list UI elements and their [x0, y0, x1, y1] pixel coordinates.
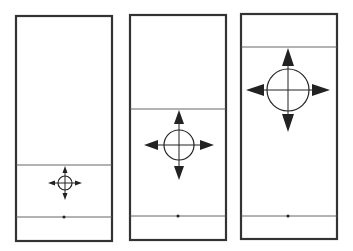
panel-1 [16, 16, 112, 241]
reference-dot [63, 216, 66, 219]
panel-2 [130, 15, 226, 240]
arrow-left-icon [48, 181, 55, 186]
panel-3 [241, 14, 337, 239]
panel-frame [16, 16, 112, 241]
arrow-right-icon [312, 84, 330, 96]
arrow-down-icon [282, 114, 294, 132]
arrow-down-icon [174, 166, 184, 180]
crosshair-target-icon [246, 48, 330, 132]
panel-frame [130, 15, 226, 240]
arrow-down-icon [63, 193, 68, 200]
arrow-left-icon [144, 140, 158, 150]
arrow-up-icon [282, 48, 294, 66]
reference-dot [177, 215, 180, 218]
arrow-up-icon [174, 110, 184, 124]
arrow-right-icon [200, 140, 214, 150]
arrow-left-icon [246, 84, 264, 96]
crosshair-target-icon [48, 166, 82, 200]
arrow-up-icon [63, 166, 68, 173]
diagram-canvas [0, 0, 353, 251]
crosshair-target-icon [144, 110, 214, 180]
arrow-right-icon [75, 181, 82, 186]
reference-dot [287, 215, 290, 218]
